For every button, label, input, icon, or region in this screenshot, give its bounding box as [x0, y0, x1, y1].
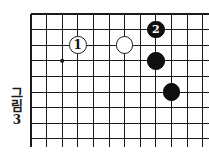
go-board	[0, 0, 209, 154]
go-board-grid	[0, 0, 209, 154]
go-stone-white-1: 1	[69, 36, 87, 54]
star-point	[60, 59, 64, 63]
go-stone-black	[163, 83, 181, 101]
stone-move-number: 2	[152, 24, 160, 35]
go-stone-black-2: 2	[147, 21, 165, 39]
go-stone-black	[147, 52, 165, 70]
figure-container: 그림 3 12	[0, 0, 209, 154]
stone-move-number: 1	[74, 39, 82, 51]
